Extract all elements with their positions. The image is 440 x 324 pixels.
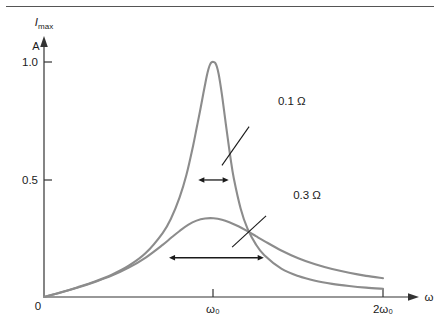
axes-group — [40, 36, 419, 301]
annotations-group: 0.1 Ω 0.3 Ω — [175, 95, 321, 258]
resonance-plot: 1.0 0.5 0 ω₀ 2ω₀ Imax A ω — [0, 0, 440, 324]
curve-label-0.3-ohm: 0.3 Ω — [293, 189, 321, 201]
x-tick-label-2omega0: 2ω₀ — [373, 303, 393, 315]
x-ticks-group — [213, 289, 383, 297]
y-tick-label-1.0: 1.0 — [22, 56, 38, 68]
leader-line-0.3-ohm — [232, 216, 266, 247]
resonance-figure: 1.0 0.5 0 ω₀ 2ω₀ Imax A ω — [0, 0, 440, 324]
y-axis-unit-label: A — [32, 40, 40, 52]
y-ticks-group — [44, 62, 52, 180]
curve-label-0.1-ohm: 0.1 Ω — [278, 95, 306, 107]
origin-label-0: 0 — [35, 300, 41, 312]
y-tick-label-0.5: 0.5 — [22, 174, 38, 186]
x-tick-label-omega0: ω₀ — [206, 303, 220, 315]
y-axis-arrowhead — [40, 36, 48, 47]
x-axis-arrowhead — [408, 293, 419, 301]
y-axis-title: Imax — [35, 16, 53, 31]
x-axis-title: ω — [425, 291, 434, 303]
